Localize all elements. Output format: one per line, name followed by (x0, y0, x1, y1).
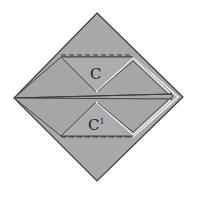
label-c: C (90, 65, 101, 83)
label-c-prime-sup: 1 (99, 117, 104, 126)
origami-diagram: C C1 (0, 0, 200, 199)
label-c-prime-base: C (88, 116, 99, 134)
